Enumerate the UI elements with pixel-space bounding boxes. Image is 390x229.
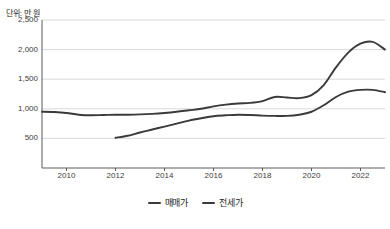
legend-item-sale[interactable]: 매매가 bbox=[148, 198, 188, 208]
legend-label: 전세가 bbox=[219, 198, 242, 208]
x-tick-label: 2014 bbox=[156, 172, 174, 180]
line-swatch-icon bbox=[148, 202, 161, 204]
x-tick-label: 2022 bbox=[352, 172, 370, 180]
chart-legend: 매매가전세가 bbox=[0, 198, 390, 208]
line-swatch-icon bbox=[202, 202, 215, 204]
x-tick-label: 2020 bbox=[303, 172, 321, 180]
plot-area: 5001,0001,5002,0002,500 2010201220142016… bbox=[0, 0, 390, 185]
legend-item-jeonse[interactable]: 전세가 bbox=[202, 198, 242, 208]
price-trend-chart: 단위: 만 원 5001,0001,5002,0002,500 20102012… bbox=[0, 0, 390, 229]
x-tick-label: 2010 bbox=[58, 172, 76, 180]
x-tick-label: 2012 bbox=[107, 172, 125, 180]
x-axis-labels: 2010201220142016201820202022 bbox=[0, 0, 390, 185]
x-tick-label: 2018 bbox=[254, 172, 272, 180]
x-tick-label: 2016 bbox=[205, 172, 223, 180]
legend-label: 매매가 bbox=[165, 198, 188, 208]
